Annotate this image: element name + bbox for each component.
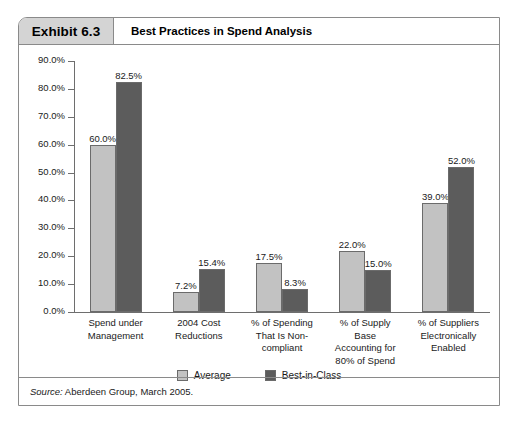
bar-best-in-class: 52.0% [448, 167, 474, 312]
bar-value-label: 17.5% [239, 251, 299, 262]
y-axis-tick-mark [68, 89, 74, 90]
y-axis-tick-label: 30.0% [38, 221, 65, 232]
y-axis-tick-mark [68, 228, 74, 229]
bar-best-in-class: 8.3% [282, 289, 308, 312]
bar-group: 39.0%52.0% [422, 61, 474, 312]
y-axis-tick-label: 70.0% [38, 110, 65, 121]
y-axis-tick-label: 60.0% [38, 138, 65, 149]
y-axis-tick-label: 10.0% [38, 277, 65, 288]
y-axis-line [74, 61, 75, 313]
y-axis-tick-mark [68, 284, 74, 285]
y-axis-tick-mark [68, 200, 74, 201]
exhibit-number-label: Exhibit 6.3 [32, 24, 101, 39]
y-axis-tick-label: 80.0% [38, 82, 65, 93]
bar-best-in-class: 82.5% [116, 82, 142, 312]
bar-value-label: 22.0% [322, 239, 382, 250]
exhibit-header: Exhibit 6.3 Best Practices in Spend Anal… [19, 18, 499, 45]
y-axis-tick-label: 90.0% [38, 54, 65, 65]
bar-average: 7.2% [173, 292, 199, 312]
exhibit-title-box: Best Practices in Spend Analysis [114, 18, 499, 44]
y-axis-tick-mark [68, 312, 74, 313]
x-axis-line [74, 312, 490, 313]
category-label: % of Suppliers Electronically Enabled [401, 317, 496, 355]
source-prefix: Source: [30, 386, 63, 397]
bar-value-label: 82.5% [99, 70, 159, 81]
bar-group: 17.5%8.3% [256, 61, 308, 312]
plot-area: 90.0%80.0%70.0%60.0%50.0%40.0%30.0%20.0%… [74, 61, 490, 313]
bar-value-label: 8.3% [265, 277, 325, 288]
y-axis-tick-mark [68, 256, 74, 257]
bar-best-in-class: 15.0% [365, 270, 391, 312]
bar-average: 39.0% [422, 203, 448, 312]
category-label: % of Supply Base Accounting for 80% of S… [318, 317, 413, 367]
y-axis-tick-label: 20.0% [38, 249, 65, 260]
source-text: Source: Aberdeen Group, March 2005. [30, 386, 193, 397]
y-axis-tick-mark [68, 173, 74, 174]
y-axis-tick-label: 0.0% [43, 305, 65, 316]
exhibit-number-box: Exhibit 6.3 [19, 18, 114, 44]
y-axis-tick-mark [68, 61, 74, 62]
bar-value-label: 15.4% [182, 257, 242, 268]
y-axis-tick-label: 40.0% [38, 193, 65, 204]
bar-group: 7.2%15.4% [173, 61, 225, 312]
category-label: % of Spending That Is Non- compliant [234, 317, 329, 355]
y-axis-tick-mark [68, 145, 74, 146]
chart-body: 90.0%80.0%70.0%60.0%50.0%40.0%30.0%20.0%… [19, 45, 499, 378]
bar-value-label: 52.0% [431, 155, 491, 166]
bar-value-label: 15.0% [348, 258, 408, 269]
y-axis-tick-mark [68, 117, 74, 118]
bar-average: 60.0% [90, 145, 116, 312]
bar-group: 22.0%15.0% [339, 61, 391, 312]
source-body: Aberdeen Group, March 2005. [63, 386, 193, 397]
category-label: Spend under Management [68, 317, 163, 342]
category-label: 2004 Cost Reductions [151, 317, 246, 342]
exhibit-frame: Exhibit 6.3 Best Practices in Spend Anal… [18, 17, 500, 406]
y-axis-tick-label: 50.0% [38, 166, 65, 177]
source-footer: Source: Aberdeen Group, March 2005. [19, 377, 499, 405]
exhibit-title: Best Practices in Spend Analysis [131, 25, 312, 37]
bar-best-in-class: 15.4% [199, 269, 225, 312]
bar-group: 60.0%82.5% [90, 61, 142, 312]
